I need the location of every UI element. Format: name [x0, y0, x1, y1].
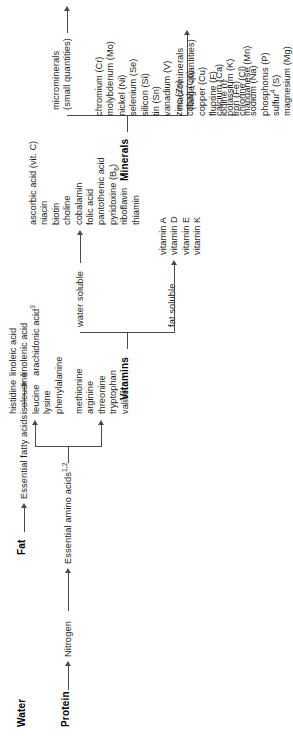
fat-soluble-to-list-line: [174, 263, 175, 333]
eaa-bracket-vertical: [35, 446, 101, 447]
protein-level1-nitrogen: Nitrogen: [63, 621, 74, 657]
list-item: sodium (Na): [248, 46, 259, 116]
fat-soluble-to-list-arrow: [171, 260, 177, 265]
fat-level1-essential-fatty-acids: Essential fatty acids: [19, 415, 30, 499]
list-item: cobalamin: [74, 141, 85, 225]
list-item: phenylalanine: [54, 357, 65, 414]
vitamins-trunk-line: [127, 333, 128, 349]
list-item: folic acid: [85, 141, 96, 225]
eaa-label-text: Essential amino acids: [63, 472, 73, 564]
list-item: nickel (Ni): [117, 41, 128, 116]
fat-to-efa-arrow: [21, 503, 27, 508]
list-item: vitamin E: [181, 216, 192, 255]
group-header-fat: Fat: [16, 539, 27, 555]
list-item: pantothenic acid: [96, 141, 107, 225]
group-header-minerals: Minerals: [119, 139, 130, 181]
list-item: threonine: [97, 369, 108, 414]
list-item: copper (Cu): [197, 41, 208, 116]
efa-to-list-line: [24, 384, 25, 408]
nitrogen-to-eaa-arrow: [65, 568, 71, 573]
list-item: tin (Sn): [151, 41, 162, 116]
list-item-pyridoxine: pyridoxine (B6): [108, 141, 119, 225]
list-item: calcium (Ca): [214, 46, 225, 116]
list-item: vitamin D: [169, 216, 180, 255]
list-item: tryptophan: [108, 369, 119, 414]
figure-rotation-wrapper: Water Protein Nitrogen Essential amino a…: [0, 0, 291, 745]
list-item: lysine: [42, 357, 53, 414]
list-item: choline: [62, 141, 73, 225]
fat-to-efa-line: [24, 506, 25, 532]
list-item: methionine: [74, 369, 85, 414]
list-item-arachidonic: arachidonic acid3: [31, 305, 42, 376]
protein-level2-essential-amino-acids: Essential amino acids1,2: [63, 463, 74, 564]
protein-to-nitrogen-line: [68, 664, 69, 690]
list-item: thiamin: [131, 141, 142, 225]
list-item-sulfur: sulfur4 (S): [271, 46, 282, 116]
pyridoxine-label: pyridoxine (B: [108, 171, 118, 225]
list-item: linoleic acid: [8, 305, 19, 376]
nitrogen-to-eaa-line: [68, 571, 69, 611]
list-item: phosphorus (P): [260, 46, 271, 116]
list-item: molybdenum (Mo): [105, 41, 116, 116]
eaa-branch-a-line: [101, 423, 102, 447]
list-item: magnesium (Mg): [282, 46, 291, 116]
list-item: vanadium (V): [162, 41, 173, 116]
list-item: vitamin A: [158, 216, 169, 255]
protein-to-nitrogen-arrow: [65, 661, 71, 666]
microminerals-to-list-line: [67, 9, 68, 33]
list-item: arginine: [85, 369, 96, 414]
fat-essential-fatty-acid-list: linoleic acid linolenic acid arachidonic…: [8, 305, 42, 376]
list-item: silicon (Si): [140, 41, 151, 116]
pyridoxine-tail: ): [108, 164, 118, 167]
vitamins-water-soluble-label: water soluble: [75, 271, 86, 327]
microminerals-label-line1: microminerals: [51, 51, 62, 110]
eaa-branch-b-line: [35, 423, 36, 447]
eaa-branch-a-arrow: [98, 420, 104, 425]
arachidonic-footnote-marker: 3: [29, 305, 36, 309]
eaa-footnote-marker: 1,2: [61, 463, 68, 472]
list-item: biotin: [51, 141, 62, 225]
list-item: selenium (Se): [128, 41, 139, 116]
efa-to-list-arrow: [21, 381, 27, 386]
list-item: linolenic acid: [19, 305, 30, 376]
list-item: ascorbic acid (vit. C): [28, 141, 39, 225]
list-item: vitamin K: [192, 216, 203, 255]
water-soluble-to-list-line: [80, 233, 81, 263]
sulfur-symbol: (S): [271, 75, 281, 90]
group-header-protein: Protein: [60, 691, 71, 727]
nutrient-classification-diagram: Water Protein Nitrogen Essential amino a…: [0, 0, 291, 745]
list-item: chlorine (Cl): [237, 46, 248, 116]
vitamins-fat-soluble-list: vitamin A vitamin D vitamin E vitamin K: [158, 216, 204, 255]
list-item: niacin: [39, 141, 50, 225]
microminerals-label-line2: (small quantities): [62, 38, 73, 110]
microminerals-stub: [67, 115, 68, 116]
macrominerals-label-line1: macrominerals: [175, 48, 186, 110]
microminerals-to-list-arrow: [64, 6, 70, 11]
macrominerals-list: calcium (Ca) potassium (K) chlorine (Cl)…: [214, 46, 291, 116]
macrominerals-to-list-line: [187, 33, 188, 116]
eaa-trunk-line: [68, 447, 69, 463]
sulfur-label: sulfur: [271, 93, 281, 116]
water-soluble-to-list-arrow: [77, 230, 83, 235]
arachidonic-label: arachidonic acid: [31, 309, 41, 376]
eaa-branch-b-arrow: [32, 420, 38, 425]
vitamins-water-soluble-stub: [80, 332, 81, 333]
minerals-trunk-line: [127, 116, 128, 132]
group-header-water: Water: [16, 699, 27, 727]
vitamins-bracket-vertical: [80, 332, 174, 333]
group-header-vitamins: Vitamins: [119, 357, 130, 400]
macrominerals-to-list-arrow: [184, 30, 190, 35]
vitamins-fat-soluble-label: fat soluble: [167, 284, 178, 327]
list-item: chromium (Cr): [94, 41, 105, 116]
sulfur-footnote-marker: 4: [269, 90, 276, 94]
list-item: potassium (K): [225, 46, 236, 116]
